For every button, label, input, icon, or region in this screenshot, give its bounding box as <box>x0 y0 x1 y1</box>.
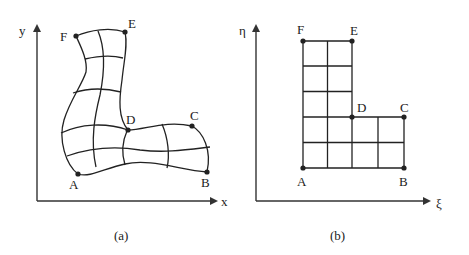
point-D <box>349 114 354 119</box>
computational-grid-lines <box>303 41 404 168</box>
point-D <box>125 127 130 132</box>
point-F <box>300 38 305 43</box>
y-axis-label: y <box>19 23 26 38</box>
caption-b: (b) <box>330 228 345 243</box>
eta-axis-label: η <box>239 23 246 38</box>
label-E: E <box>350 23 358 38</box>
label-D: D <box>126 112 135 127</box>
computational-boundary <box>303 41 404 168</box>
label-D: D <box>357 100 366 115</box>
point-F <box>73 33 78 38</box>
label-B: B <box>399 174 408 189</box>
label-A: A <box>69 177 79 192</box>
point-B <box>204 169 209 174</box>
point-A <box>75 171 80 176</box>
label-F: F <box>297 22 304 37</box>
panel-a-physical-domain: y x <box>19 16 228 243</box>
computational-points <box>300 38 406 170</box>
point-B <box>401 165 406 170</box>
label-F: F <box>60 29 67 44</box>
label-E: E <box>128 16 136 31</box>
label-A: A <box>297 174 307 189</box>
point-E <box>122 29 127 34</box>
physical-boundary <box>62 29 208 174</box>
xi-axis-label: ξ <box>436 196 442 211</box>
panel-b-computational-domain: η ξ F E D C A <box>239 22 442 243</box>
caption-a: (a) <box>114 228 128 243</box>
label-C: C <box>190 108 199 123</box>
point-C <box>189 123 194 128</box>
grid-transformation-figure: y x <box>0 0 469 255</box>
label-C: C <box>400 100 409 115</box>
point-E <box>349 38 354 43</box>
point-A <box>300 165 305 170</box>
label-B: B <box>201 175 210 190</box>
point-C <box>401 114 406 119</box>
x-axis-label: x <box>221 194 228 209</box>
